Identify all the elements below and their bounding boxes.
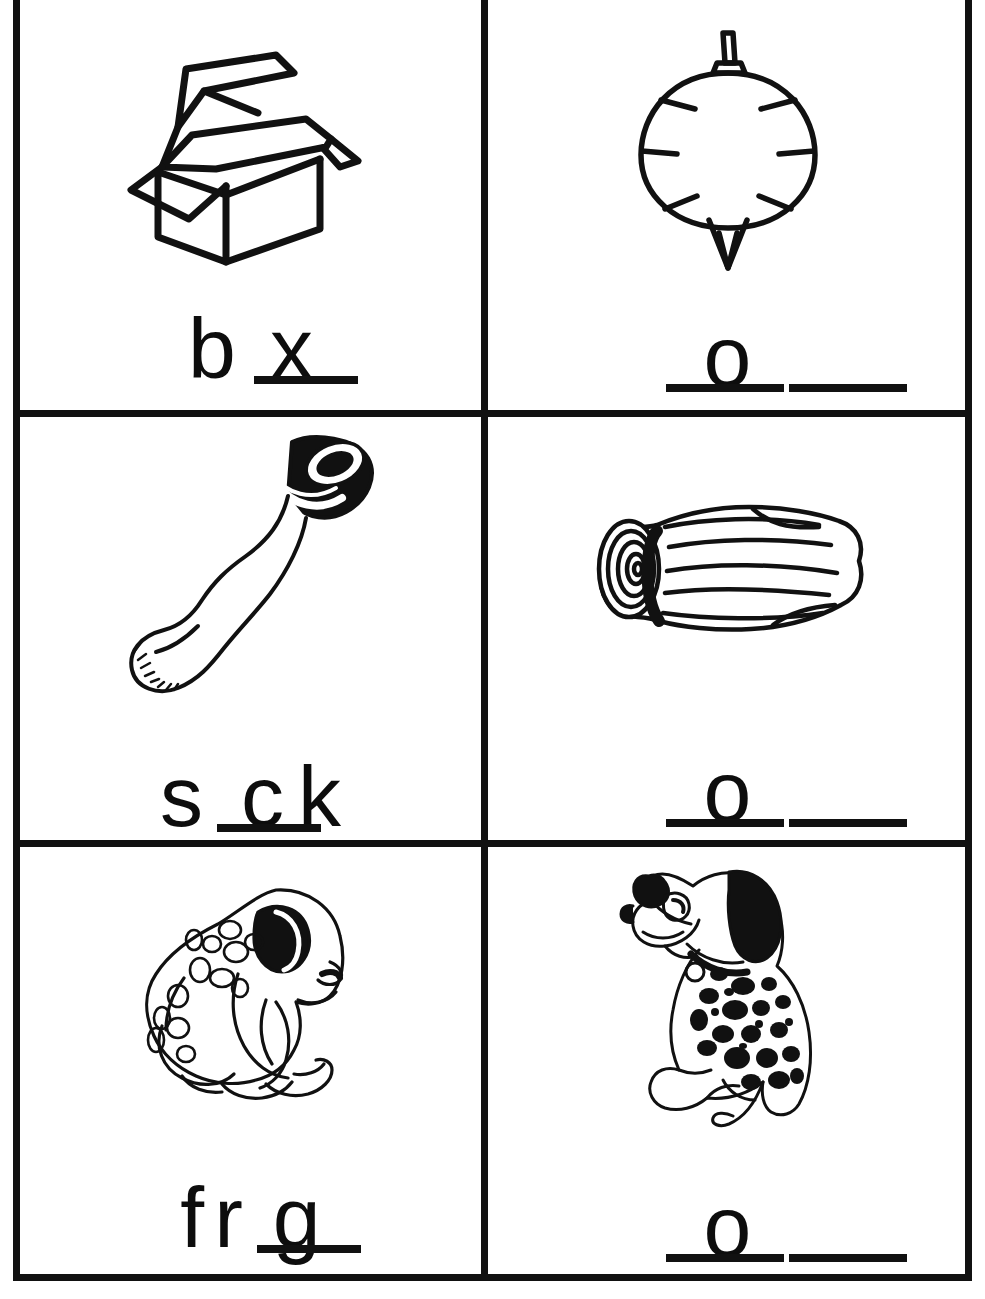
letter-o: o [704, 320, 752, 392]
spinning-top-illustration [490, 20, 965, 280]
worksheet-page: b x [0, 0, 985, 1299]
blank-line [789, 819, 907, 827]
worksheet-cell-sock[interactable]: s c k [20, 417, 481, 840]
grid-border-right [965, 0, 972, 1281]
sock-illustration [20, 427, 481, 717]
worksheet-cell-top[interactable]: o [490, 0, 965, 410]
box-word-line[interactable]: b x [20, 274, 481, 384]
blank-line [257, 1245, 361, 1253]
frog-word-line[interactable]: f r g [20, 1135, 481, 1253]
sock-word-line[interactable]: s c k [20, 717, 481, 832]
letter-b: b [188, 312, 236, 384]
log-word-line[interactable]: o [490, 712, 965, 827]
letter-f: f [180, 1181, 204, 1253]
worksheet-cell-log[interactable]: o [490, 417, 965, 840]
grid-divider-row1-row2 [13, 410, 972, 417]
blank-line [666, 1254, 784, 1262]
letter-g: g [273, 1181, 321, 1253]
grid-border-bottom [13, 1274, 972, 1281]
blank-line [254, 376, 358, 384]
worksheet-cell-box[interactable]: b x [20, 0, 481, 410]
grid-divider-vertical-center [481, 0, 488, 1281]
box-illustration [20, 42, 481, 272]
log-illustration [490, 487, 965, 667]
letter-c: c [241, 760, 284, 832]
letter-s: s [160, 760, 203, 832]
grid-divider-row2-row3 [13, 840, 972, 847]
blank-line [666, 819, 784, 827]
letter-k: k [298, 760, 341, 832]
blank-line [789, 384, 907, 392]
grid-border-left [13, 0, 20, 1281]
letter-r: r [214, 1181, 243, 1253]
top-word-line[interactable]: o [490, 282, 965, 392]
letter-o: o [704, 755, 752, 827]
dog-word-line[interactable]: o [490, 1147, 965, 1262]
blank-line [217, 824, 321, 832]
letter-x: x [270, 312, 313, 384]
worksheet-cell-dog[interactable]: o [490, 847, 965, 1274]
dalmatian-dog-illustration [490, 859, 965, 1149]
blank-line [789, 1254, 907, 1262]
worksheet-cell-frog[interactable]: f r g [20, 847, 481, 1274]
frog-illustration [20, 873, 481, 1133]
letter-o: o [704, 1190, 752, 1262]
blank-line [666, 384, 784, 392]
